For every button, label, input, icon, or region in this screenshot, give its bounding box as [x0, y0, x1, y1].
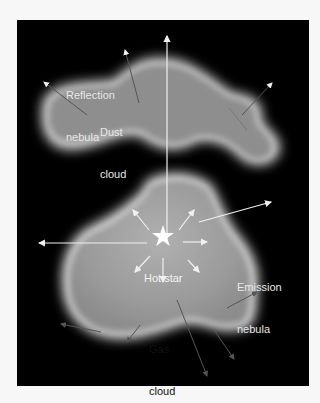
diagram-panel: Reflection nebula Dust cloud Hot star Em… [17, 20, 309, 386]
label-hot-star: Hot star [144, 271, 183, 285]
label-gas-cloud: Gas cloud [149, 314, 175, 403]
label-dust-cloud: Dust cloud [100, 97, 126, 209]
label-emission-nebula: Emission nebula [237, 252, 282, 364]
